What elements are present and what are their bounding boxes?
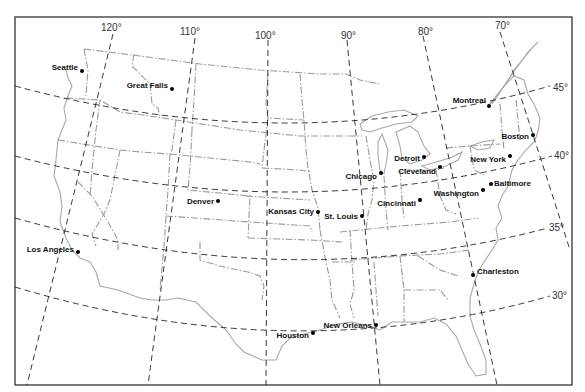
svg-text:Los Angeles: Los Angeles (27, 245, 75, 254)
city-seattle[interactable]: Seattle (52, 63, 84, 73)
svg-text:New York: New York (470, 155, 506, 164)
city-los-angeles[interactable]: Los Angeles (27, 245, 80, 254)
city-new-york[interactable]: New York (470, 154, 512, 164)
svg-text:Great Falls: Great Falls (127, 81, 169, 90)
us-map: 120° 110° 100° 90° 80° 70° 45° 40° 35° 3… (0, 0, 585, 392)
svg-text:Chicago: Chicago (345, 172, 377, 181)
map-frame (15, 17, 572, 385)
city-charleston[interactable]: Charleston (471, 267, 519, 277)
parallel-label-35: 35° (549, 222, 564, 233)
meridian-label-70: 70° (495, 20, 510, 31)
parallel-label-40: 40° (554, 150, 569, 161)
city-montreal[interactable]: Montreal (453, 96, 491, 108)
svg-text:Boston: Boston (501, 132, 529, 141)
svg-text:Kansas City: Kansas City (268, 207, 314, 216)
svg-text:Seattle: Seattle (52, 63, 79, 72)
meridian-label-120: 120° (101, 22, 122, 33)
meridian-labels: 120° 110° 100° 90° 80° 70° (101, 20, 510, 41)
meridian-label-80: 80° (418, 26, 433, 37)
svg-text:Baltimore: Baltimore (494, 179, 531, 188)
city-st-louis[interactable]: St. Louis (324, 212, 364, 221)
cities: Seattle Great Falls Montreal Boston Detr… (27, 63, 535, 340)
city-denver[interactable]: Denver (187, 197, 220, 206)
svg-text:Charleston: Charleston (477, 267, 519, 276)
svg-text:Washington: Washington (434, 189, 480, 198)
city-great-falls[interactable]: Great Falls (127, 81, 174, 91)
svg-text:Cincinnati: Cincinnati (377, 199, 416, 208)
parallel-labels: 45° 40° 35° 30° (549, 82, 569, 301)
city-detroit[interactable]: Detroit (394, 154, 426, 163)
city-cincinnati[interactable]: Cincinnati (377, 198, 422, 208)
city-boston[interactable]: Boston (501, 132, 535, 141)
svg-text:St. Louis: St. Louis (324, 212, 358, 221)
city-new-orleans[interactable]: New Orleans (324, 321, 378, 330)
city-washington[interactable]: Washington (434, 188, 485, 198)
svg-text:Houston: Houston (277, 331, 310, 340)
parallel-label-45: 45° (553, 82, 568, 93)
meridian-label-90: 90° (341, 30, 356, 41)
meridian-label-100: 100° (255, 30, 276, 41)
city-kansas-city[interactable]: Kansas City (268, 207, 320, 216)
svg-text:Cleveland: Cleveland (398, 167, 436, 176)
city-chicago[interactable]: Chicago (345, 171, 383, 181)
svg-text:Montreal: Montreal (453, 96, 486, 105)
svg-text:Denver: Denver (187, 197, 214, 206)
city-cleveland[interactable]: Cleveland (398, 165, 442, 176)
meridian-label-110: 110° (180, 26, 200, 37)
svg-text:Detroit: Detroit (394, 154, 420, 163)
city-baltimore[interactable]: Baltimore (489, 179, 531, 188)
svg-text:New Orleans: New Orleans (324, 321, 373, 330)
parallel-label-30: 30° (552, 290, 567, 301)
